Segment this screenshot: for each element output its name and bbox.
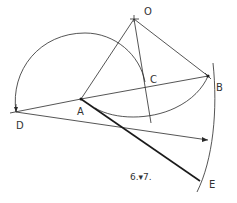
label-b: B bbox=[216, 82, 223, 93]
figure-caption: 6.▾7. bbox=[130, 172, 152, 182]
point-d-marker bbox=[14, 104, 18, 112]
label-a: A bbox=[77, 106, 84, 117]
segment-d-to-arc bbox=[16, 112, 208, 140]
arc-b-to-e bbox=[197, 63, 215, 192]
geometric-construction-diagram: O B A C D E 6.▾7. bbox=[0, 0, 237, 203]
segment-o-c-extended bbox=[134, 19, 151, 123]
label-e: E bbox=[209, 179, 215, 190]
segment-d-a bbox=[10, 99, 81, 113]
label-o: O bbox=[144, 6, 152, 17]
label-c: C bbox=[150, 74, 157, 85]
label-d: D bbox=[16, 120, 24, 131]
point-a-marker bbox=[80, 98, 83, 101]
segment-o-a bbox=[81, 19, 134, 99]
segment-o-b bbox=[134, 19, 208, 76]
segment-a-e bbox=[81, 99, 200, 181]
